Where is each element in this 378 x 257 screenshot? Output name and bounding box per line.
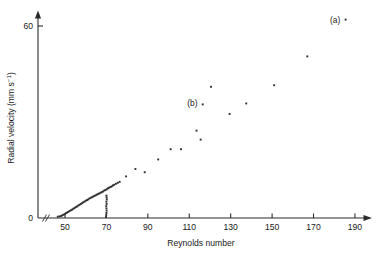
data-point	[117, 182, 119, 184]
data-point	[229, 113, 231, 115]
data-point	[144, 171, 146, 173]
x-axis-arrow-icon	[364, 215, 373, 221]
data-point	[196, 130, 198, 132]
y-tick-label: 60	[23, 21, 33, 31]
y-axis-title-tail: )	[6, 72, 16, 75]
data-point	[105, 207, 107, 209]
y-axis-title-main: Radial velocity (mm s	[6, 82, 16, 164]
axes	[35, 11, 372, 222]
x-tick-label: 50	[60, 222, 70, 232]
data-point	[273, 84, 275, 86]
y-axis-title: Radial velocity (mm s−1)	[5, 72, 16, 164]
data-point	[157, 158, 159, 160]
data-point	[134, 168, 136, 170]
data-series	[57, 181, 121, 218]
x-tick-label: 190	[348, 222, 363, 232]
data-point	[345, 19, 347, 21]
data-point	[105, 214, 107, 216]
data-point	[210, 86, 212, 88]
scatter-plot: 507090110130150170190 060 (a)(b) Reynold…	[0, 0, 378, 257]
data-point	[105, 212, 107, 214]
data-point	[200, 139, 202, 141]
data-point	[119, 181, 121, 183]
x-axis-title: Reynolds number	[167, 238, 234, 248]
data-point	[105, 205, 107, 207]
data-point	[180, 148, 182, 150]
x-tick-label: 90	[143, 222, 153, 232]
figure-container: 507090110130150170190 060 (a)(b) Reynold…	[0, 0, 378, 257]
plot-annotations: (a)(b)	[187, 15, 340, 108]
data-point	[105, 201, 107, 203]
y-axis-ticks: 060	[23, 21, 43, 223]
data-point	[202, 103, 204, 105]
data-point	[125, 175, 127, 177]
data-series	[125, 19, 346, 178]
plot-annotation-label: (b)	[187, 98, 197, 108]
x-tick-label: 110	[182, 222, 196, 232]
data-point	[306, 55, 308, 57]
y-axis-arrow-icon	[35, 11, 41, 19]
plot-annotation-label: (a)	[330, 15, 340, 25]
data-point	[245, 102, 247, 104]
data-point	[57, 216, 59, 218]
data-point	[170, 148, 172, 150]
x-tick-label: 170	[306, 222, 321, 232]
data-point	[106, 203, 108, 205]
data-point	[115, 183, 117, 185]
y-tick-label: 0	[28, 213, 33, 223]
svg-text:Radial velocity (mm s−1): Radial velocity (mm s−1)	[5, 72, 16, 164]
data-points	[57, 19, 347, 218]
data-point	[106, 198, 108, 200]
data-point	[105, 195, 107, 197]
x-tick-label: 70	[102, 222, 112, 232]
data-point	[106, 197, 108, 199]
data-series	[105, 195, 108, 218]
x-tick-label: 150	[265, 222, 280, 232]
x-tick-label: 130	[224, 222, 239, 232]
data-point	[113, 184, 115, 186]
data-point	[105, 216, 107, 218]
data-point	[106, 210, 108, 212]
